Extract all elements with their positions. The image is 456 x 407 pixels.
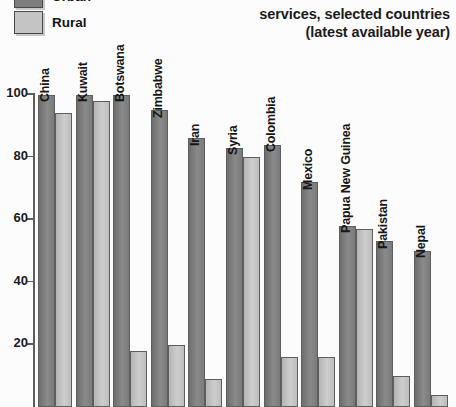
category-label: Colombia <box>264 97 278 152</box>
legend-entry-rural: Rural <box>14 9 91 35</box>
bar-group <box>76 93 110 407</box>
legend-column: Urban Rural <box>14 0 91 35</box>
category-label: Zimbabwe <box>151 58 165 118</box>
y-axis-line <box>33 93 35 407</box>
sanitation-access-bar-chart: Urban Rural with access to sanitation se… <box>0 0 456 407</box>
bar-urban <box>301 182 318 407</box>
category-label: Botswana <box>113 45 127 102</box>
title-line-3: (latest available year) <box>192 23 450 42</box>
bar-group <box>376 93 410 407</box>
title-line-2: services, selected countries <box>192 5 450 24</box>
bar-rural <box>93 101 110 407</box>
category-label: Syria <box>226 126 240 156</box>
bar-rural <box>168 345 185 407</box>
bar-urban <box>226 148 243 407</box>
bar-rural <box>356 229 373 407</box>
legend-swatch-urban-icon <box>14 0 43 8</box>
bar-group <box>113 93 147 407</box>
bar-rural <box>431 395 448 407</box>
plot-area <box>33 93 453 407</box>
y-axis-label: 40 <box>0 273 28 288</box>
bar-rural <box>318 357 335 407</box>
bar-rural <box>130 351 147 407</box>
category-label: Kuwait <box>76 62 90 102</box>
bar-urban <box>151 110 168 407</box>
bar-urban <box>76 95 93 407</box>
y-axis-label: 20 <box>0 335 28 350</box>
bar-urban <box>188 138 205 407</box>
bar-rural <box>243 157 260 407</box>
y-axis-label: 80 <box>0 148 28 163</box>
category-label: Papua New Guinea <box>339 124 353 233</box>
bar-rural <box>205 379 222 407</box>
y-axis-label: 100 <box>0 85 28 100</box>
category-label: Mexico <box>301 148 315 189</box>
bar-urban <box>113 95 130 407</box>
bar-urban <box>264 145 281 407</box>
bar-rural <box>281 357 298 407</box>
category-label: China <box>38 68 52 102</box>
bar-group <box>301 93 335 407</box>
chart-legend: Urban Rural <box>14 0 91 35</box>
category-label: Pakistan <box>376 199 390 249</box>
legend-label-rural: Rural <box>52 15 87 30</box>
bar-urban <box>376 241 393 407</box>
bar-urban <box>339 226 356 407</box>
legend-swatch-rural-icon <box>14 11 43 34</box>
category-label: Nepal <box>414 225 428 258</box>
bar-group <box>151 93 185 407</box>
bar-group <box>38 93 72 407</box>
bar-urban <box>414 251 431 407</box>
bar-rural <box>55 113 72 407</box>
y-axis-label: 60 <box>0 210 28 225</box>
bar-rural <box>393 376 410 407</box>
bar-urban <box>38 95 55 407</box>
legend-label-urban: Urban <box>52 0 91 4</box>
chart-title: with access to sanitation services, sele… <box>192 0 450 42</box>
legend-entry-urban: Urban <box>14 0 91 9</box>
category-label: Iran <box>188 124 202 146</box>
